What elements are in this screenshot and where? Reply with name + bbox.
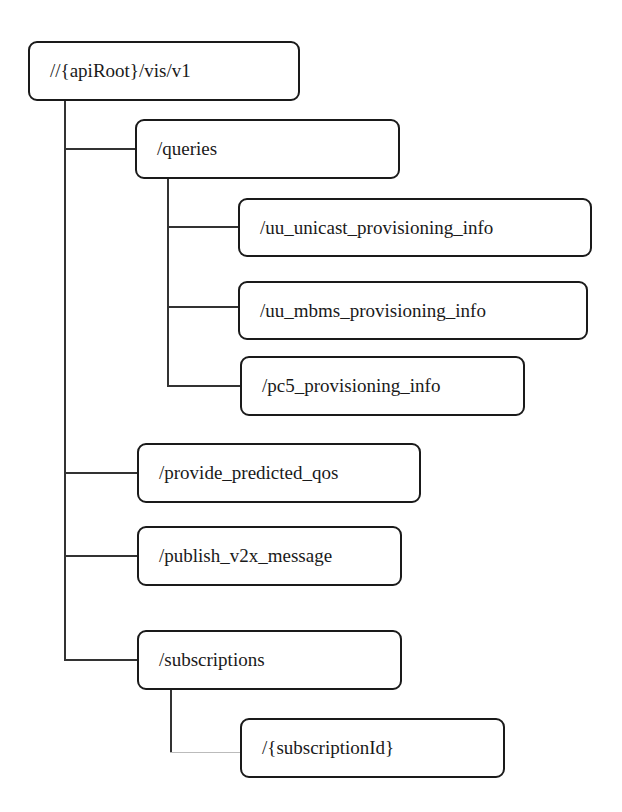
node-label: //{apiRoot}/vis/v1 bbox=[50, 60, 191, 82]
node-publish-v2x-message: /publish_v2x_message bbox=[137, 526, 402, 586]
node-label: /queries bbox=[157, 138, 217, 160]
node-label: /{subscriptionId} bbox=[262, 737, 394, 759]
root-trunk-line bbox=[64, 100, 66, 660]
node-api-root: //{apiRoot}/vis/v1 bbox=[28, 41, 300, 101]
connector-pc5 bbox=[167, 385, 240, 387]
connector-provide-qos bbox=[64, 472, 137, 474]
subscriptions-trunk-line bbox=[170, 690, 172, 752]
node-subscription-id: /{subscriptionId} bbox=[240, 718, 505, 778]
node-label: /pc5_provisioning_info bbox=[262, 375, 440, 397]
node-uu-unicast-provisioning-info: /uu_unicast_provisioning_info bbox=[238, 198, 592, 257]
connector-uu-unicast bbox=[167, 226, 238, 228]
connector-uu-mbms bbox=[167, 306, 238, 308]
connector-queries bbox=[64, 148, 137, 150]
queries-trunk-line bbox=[167, 178, 169, 386]
connector-subscriptions bbox=[64, 659, 137, 661]
node-label: /uu_mbms_provisioning_info bbox=[260, 300, 486, 322]
connector-publish-v2x bbox=[64, 555, 137, 557]
connector-subscription-id bbox=[170, 752, 240, 753]
node-uu-mbms-provisioning-info: /uu_mbms_provisioning_info bbox=[238, 281, 588, 340]
node-label: /publish_v2x_message bbox=[159, 545, 332, 567]
node-subscriptions: /subscriptions bbox=[137, 630, 402, 690]
node-provide-predicted-qos: /provide_predicted_qos bbox=[137, 443, 421, 503]
node-queries: /queries bbox=[135, 119, 400, 179]
node-label: /provide_predicted_qos bbox=[159, 462, 338, 484]
node-label: /subscriptions bbox=[159, 649, 265, 671]
node-pc5-provisioning-info: /pc5_provisioning_info bbox=[240, 356, 525, 416]
node-label: /uu_unicast_provisioning_info bbox=[260, 217, 493, 239]
